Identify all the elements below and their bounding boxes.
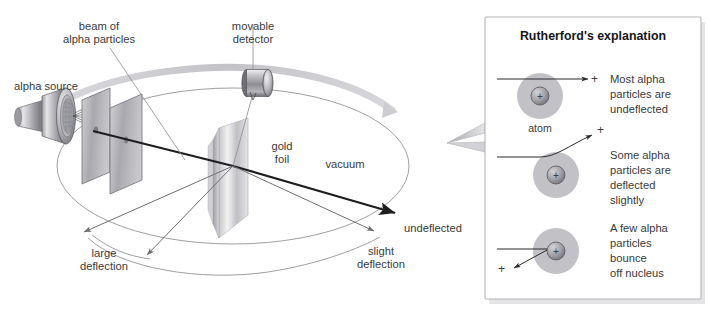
beam-label-line2: alpha particles: [63, 33, 136, 45]
nucleus-plus-3: +: [553, 246, 559, 257]
row2-text-line-2: deflected: [610, 179, 655, 191]
rutherford-experiment-diagram: alpha source beam of alpha particles mov…: [0, 0, 708, 318]
row3-text-line-0: A few alpha: [610, 222, 669, 234]
gold-foil-label-line1: gold: [271, 140, 292, 152]
slight-deflection-label-line2: deflection: [357, 258, 405, 270]
row3-text-line-3: off nucleus: [610, 267, 664, 279]
alpha-particle-plus-3: +: [498, 262, 505, 276]
row1-text-line-2: undeflected: [610, 103, 668, 115]
row1-text-line-1: particles are: [610, 88, 671, 100]
nucleus-plus-1: +: [537, 91, 543, 102]
undeflected-beam-line: [233, 166, 395, 213]
panel-connector-wedge: [447, 123, 485, 152]
row3-text-line-1: particles: [610, 237, 652, 249]
undeflected-label: undeflected: [404, 222, 462, 234]
movable-detector: [233, 25, 273, 166]
row3-text-line-2: bounce: [610, 252, 647, 264]
slight-deflection-ray: [233, 166, 374, 231]
row2-text-line-3: slightly: [610, 194, 645, 206]
gold-foil-label-line2: foil: [275, 153, 289, 165]
main-experiment-group: alpha source beam of alpha particles mov…: [14, 20, 462, 275]
movable-detector-label-line1: movable: [232, 20, 274, 32]
deflection-angle-arc: [88, 237, 380, 275]
row2-text-line-1: particles are: [610, 164, 671, 176]
alpha-source-label: alpha source: [14, 80, 78, 92]
large-deflection-label-line2: deflection: [80, 260, 128, 272]
alpha-particle-plus-2: +: [597, 123, 604, 137]
movable-detector-label-line2: detector: [233, 33, 274, 45]
collimator-plate-1: [82, 88, 110, 184]
slight-deflection-label-line1: slight: [368, 245, 395, 257]
rutherford-explanation-panel: Rutherford's explanation + + atom Most a…: [485, 17, 705, 304]
large-deflection-label-line1: large: [92, 247, 117, 259]
atom-label-1: atom: [528, 122, 552, 134]
collimator-plate-2: [110, 94, 142, 194]
row2-text-line-0: Some alpha: [610, 149, 670, 161]
row1-text-line-0: Most alpha: [610, 73, 666, 85]
gold-foil: [208, 118, 248, 238]
alpha-particle-plus-1: +: [591, 72, 598, 86]
vacuum-label: vacuum: [325, 158, 364, 170]
panel-title: Rutherford's explanation: [520, 29, 666, 43]
beam-label-line1: beam of: [79, 20, 120, 32]
figure-root: alpha source beam of alpha particles mov…: [0, 0, 708, 318]
nucleus-plus-2: +: [553, 170, 559, 181]
